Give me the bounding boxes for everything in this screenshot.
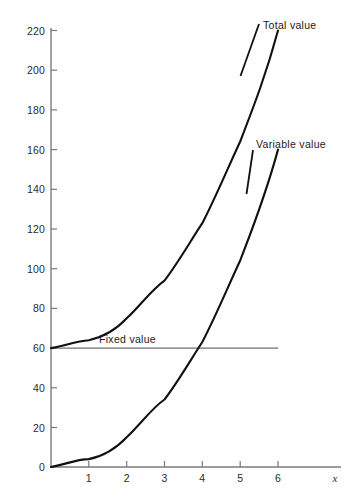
x-tick-label-3: 3	[161, 472, 167, 484]
y-tick-label-120: 120	[27, 223, 45, 235]
x-tick-label-4: 4	[199, 472, 205, 484]
y-tick-label-60: 60	[33, 342, 45, 354]
y-tick-label-140: 140	[27, 183, 45, 195]
variable-value-leader	[247, 150, 254, 194]
y-tick-labels: 220 200 180 160 140 120 100 80 60 40 20 …	[27, 25, 45, 474]
y-tick-label-80: 80	[33, 302, 45, 314]
y-tick-label-200: 200	[27, 64, 45, 76]
x-tick-label-1: 1	[86, 472, 92, 484]
x-axis-name: x	[332, 472, 338, 484]
y-tick-label-220: 220	[27, 25, 45, 37]
total-value-annotation: Total value	[241, 19, 317, 76]
chart-container: 220 200 180 160 140 120 100 80 60 40 20 …	[0, 0, 361, 500]
x-tick-label-5: 5	[237, 472, 243, 484]
y-tick-label-20: 20	[33, 422, 45, 434]
variable-value-annotation: Variable value	[247, 138, 326, 194]
x-tick-labels: 1 2 3 4 5 6	[86, 472, 281, 484]
y-tick-label-100: 100	[27, 263, 45, 275]
total-value-leader	[241, 24, 260, 76]
variable-value-label: Variable value	[256, 138, 326, 150]
y-tick-label-180: 180	[27, 104, 45, 116]
total-value-label: Total value	[263, 19, 317, 31]
variable-value-curve	[51, 150, 278, 467]
cost-behaviour-chart: 220 200 180 160 140 120 100 80 60 40 20 …	[0, 0, 361, 500]
axes-group	[51, 28, 341, 467]
y-tick-label-160: 160	[27, 144, 45, 156]
x-tick-label-2: 2	[124, 472, 130, 484]
fixed-value-label: Fixed value	[99, 333, 156, 345]
total-value-curve	[51, 31, 278, 349]
x-tick-label-6: 6	[275, 472, 281, 484]
y-tick-marks	[51, 31, 57, 428]
y-tick-label-0: 0	[39, 461, 45, 473]
x-tick-marks	[89, 461, 278, 467]
y-tick-label-40: 40	[33, 382, 45, 394]
